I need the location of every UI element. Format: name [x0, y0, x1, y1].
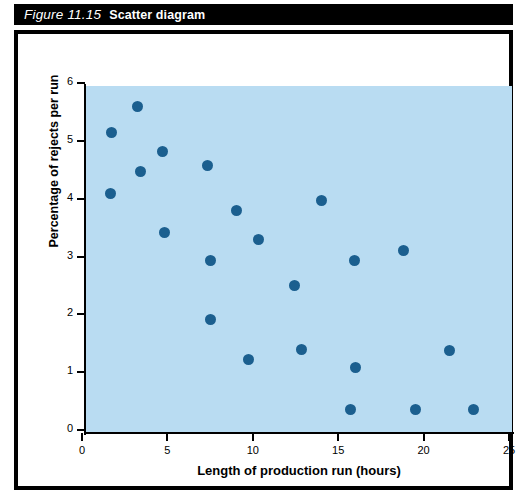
y-tick [77, 371, 85, 373]
figure-title-bar: Figure 11.15 Scatter diagram [14, 4, 513, 25]
y-tick-label: 0 [53, 422, 73, 434]
x-tick-label: 25 [494, 444, 524, 456]
y-tick [77, 429, 85, 431]
x-tick [166, 433, 168, 441]
x-axis-label: Length of production run (hours) [84, 463, 514, 478]
data-point [296, 344, 307, 355]
chart-panel: 0123456 0510152025 Percentage of rejects… [14, 30, 513, 490]
y-tick [77, 313, 85, 315]
figure-number: Figure 11.15 [24, 7, 101, 22]
x-tick [252, 433, 254, 441]
data-point [231, 205, 242, 216]
x-tick-label: 10 [238, 444, 268, 456]
y-axis-line [84, 84, 86, 435]
x-tick-label: 20 [409, 444, 439, 456]
x-tick-label: 5 [152, 444, 182, 456]
y-tick [77, 82, 85, 84]
data-point [243, 354, 254, 365]
x-tick [423, 433, 425, 441]
data-point [105, 188, 116, 199]
data-point [205, 255, 216, 266]
figure-container: Figure 11.15 Scatter diagram 0123456 051… [0, 0, 527, 497]
x-tick [81, 433, 83, 441]
data-point [289, 280, 300, 291]
plot-area [86, 86, 512, 433]
y-tick [77, 140, 85, 142]
y-axis-label: Percentage of rejects per run [47, 46, 61, 276]
data-point [159, 227, 170, 238]
figure-caption: Scatter diagram [109, 8, 205, 22]
x-tick-label: 0 [67, 444, 97, 456]
data-point [253, 234, 264, 245]
y-tick [77, 256, 85, 258]
x-axis-line [84, 432, 514, 434]
data-point [349, 255, 360, 266]
y-tick-label: 2 [53, 306, 73, 318]
y-tick [77, 198, 85, 200]
x-tick [337, 433, 339, 441]
x-tick [508, 433, 510, 441]
x-tick-label: 15 [323, 444, 353, 456]
data-point [205, 314, 216, 325]
y-tick-label: 1 [53, 364, 73, 376]
